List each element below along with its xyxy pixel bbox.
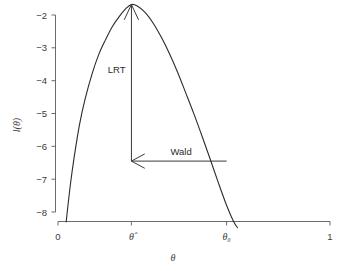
x-tick-label: 0: [55, 231, 60, 242]
y-tick-label: −3: [36, 42, 47, 53]
y-tick-label: −5: [36, 108, 47, 119]
chart-svg: −2 −3 −4 −5 −6 −7 −8 l(θ) 0 θ̂ θ₀ 1 θ: [0, 0, 346, 271]
lrt-label: LRT: [108, 64, 126, 75]
likelihood-chart-figure: −2 −3 −4 −5 −6 −7 −8 l(θ) 0 θ̂ θ₀ 1 θ: [0, 0, 346, 271]
x-axis-title: θ: [171, 252, 176, 263]
y-tick-label: −6: [36, 141, 47, 152]
chart-background: [0, 0, 346, 271]
y-axis-title: l(θ): [11, 117, 23, 132]
y-tick-label: −7: [36, 174, 47, 185]
x-tick-label-theta-zero: θ₀: [222, 231, 231, 242]
y-axis-title-text: l(θ): [11, 117, 23, 132]
y-tick-label: −4: [36, 75, 47, 86]
wald-label: Wald: [170, 146, 191, 157]
x-tick-label: 1: [327, 231, 332, 242]
y-tick-label: −2: [36, 10, 47, 21]
y-tick-label: −8: [36, 207, 47, 218]
